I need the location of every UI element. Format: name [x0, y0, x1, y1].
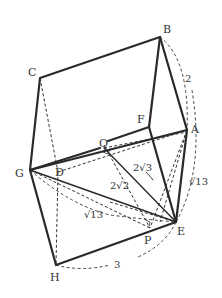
label-E: E [177, 225, 185, 238]
diagram-canvas: B C F A Q G D E P H 2 √13 √13 3 2√2 2√3 [0, 0, 222, 298]
edge-CD [40, 78, 58, 172]
label-Q: Q [99, 137, 108, 150]
arrow-2sqrt3 [146, 172, 153, 180]
label-B: B [163, 23, 171, 36]
edge-FQ [108, 127, 149, 141]
measure-HE: 3 [114, 259, 120, 270]
label-A: A [190, 123, 200, 136]
label-H: H [50, 271, 60, 284]
arc-HE [56, 265, 110, 269]
measure-2sqrt3: 2√3 [133, 162, 152, 173]
label-F: F [137, 113, 145, 126]
edge-BF [149, 37, 160, 127]
label-C: C [28, 66, 36, 79]
label-G: G [15, 167, 24, 180]
measure-AE: √13 [189, 176, 208, 187]
measure-BA: 2 [185, 73, 191, 84]
edge-AE [176, 130, 187, 222]
edge-GH [30, 170, 56, 265]
edge-DH [56, 172, 58, 265]
measure-GE: √13 [84, 209, 103, 220]
label-D: D [55, 166, 64, 179]
measure-QE: 2√2 [110, 180, 129, 191]
label-P: P [144, 234, 152, 247]
geometry-diagram: B C F A Q G D E P H 2 √13 √13 3 2√2 2√3 [0, 0, 222, 298]
